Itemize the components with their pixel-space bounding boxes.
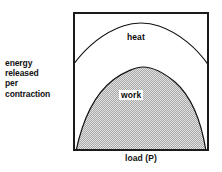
- heat-region-label: heat: [127, 32, 145, 42]
- y-axis-label-line-2: released: [5, 68, 71, 78]
- y-axis-label-line-4: contraction: [5, 89, 71, 99]
- work-region-label: work: [119, 90, 143, 100]
- figure-container: energy released per contraction he: [0, 0, 222, 172]
- y-axis-label-line-1: energy: [5, 58, 71, 68]
- y-axis-label-line-3: per: [5, 78, 71, 88]
- x-axis-label: load (P): [73, 153, 209, 163]
- plot-area: heat work: [73, 12, 209, 151]
- y-axis-label: energy released per contraction: [5, 58, 71, 99]
